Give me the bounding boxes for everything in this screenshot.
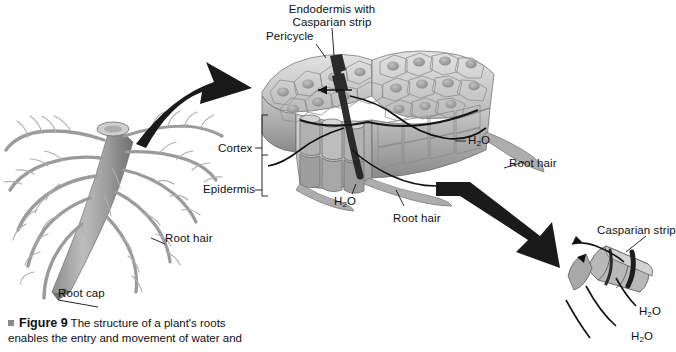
zoom-arrow-right bbox=[436, 182, 560, 268]
label-root-cap: Root cap bbox=[58, 287, 105, 300]
label-pericycle: Pericycle bbox=[266, 30, 314, 43]
label-casparian-strip-inset: Casparian strip bbox=[597, 224, 676, 237]
leader-casparian-inset bbox=[626, 236, 646, 252]
figure-number: Figure 9 bbox=[19, 316, 68, 330]
caption-bullet-icon bbox=[8, 320, 14, 326]
label-root-hair-main: Root hair bbox=[165, 232, 213, 245]
label-root-hair-right: Root hair bbox=[509, 157, 557, 170]
label-h2o-inset-lower: H2O bbox=[631, 330, 653, 344]
leader-endodermis bbox=[332, 28, 334, 56]
figure-caption: Figure 9 The structure of a plant's root… bbox=[8, 316, 258, 346]
zoom-arrow-left bbox=[136, 62, 252, 148]
label-cortex: Cortex bbox=[218, 142, 252, 155]
label-root-hair-mid: Root hair bbox=[393, 212, 441, 225]
root-cross-section bbox=[262, 51, 544, 211]
label-h2o-inset-upper: H2O bbox=[639, 305, 661, 319]
label-epidermis: Epidermis bbox=[203, 183, 255, 196]
label-h2o-cortex: H2O bbox=[334, 195, 356, 209]
whole-root-illustration bbox=[4, 111, 222, 300]
casparian-strip-detail bbox=[566, 236, 653, 338]
leader-root-cap bbox=[58, 300, 98, 307]
label-endodermis-casparian: Endodermis with Casparian strip bbox=[272, 3, 392, 29]
label-h2o-right: H2O bbox=[468, 134, 490, 148]
